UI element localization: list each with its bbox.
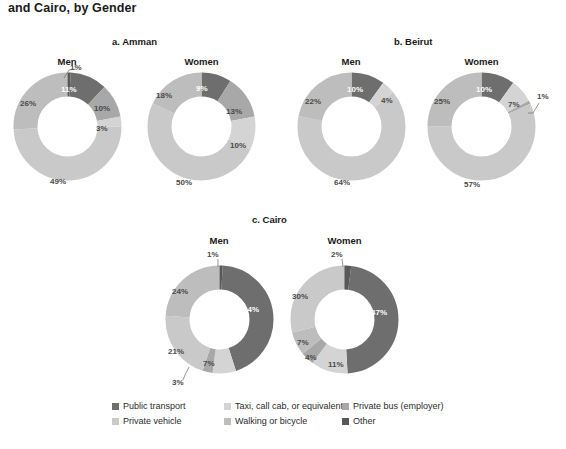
legend-label-public-transport: Public transport [123,402,186,411]
value-label-amman-women-private-bus: 13% [226,108,242,116]
legend-label-private-bus: Private bus (employer) [353,402,444,411]
legend-item-walking-bicycle[interactable]: Walking or bicycle [224,417,342,426]
chart-title-amman-women: Women [179,56,224,67]
value-label-beirut-women-private-vehicle: 57% [464,181,480,189]
value-label-cairo-women-other: 2% [331,251,343,259]
value-label-cairo-men-other: 1% [207,251,219,259]
value-label-amman-men-private-vehicle: 49% [50,178,66,186]
value-label-amman-men-taxi: 3% [96,125,108,133]
value-label-beirut-men-public-transport: 10% [347,86,363,94]
legend-label-other: Other [353,417,376,426]
value-label-cairo-women-public-transport: 47% [371,309,387,317]
value-label-amman-women-taxi: 10% [230,142,246,150]
value-label-beirut-men-private-vehicle: 64% [334,179,350,187]
value-label-beirut-women-walking-bicycle: 25% [434,98,450,106]
chart-title-cairo-women: Women [322,235,367,246]
legend-swatch-taxi-icon [224,403,231,410]
legend-label-private-vehicle: Private vehicle [123,417,182,426]
figure-root: and Cairo, by Gender a. Amman Men 1% 11%… [0,0,566,449]
chart-title-cairo-men: Men [199,235,239,246]
leader-line-cairo-men-other [213,259,223,269]
panel-title-beirut: b. Beirut [394,36,433,47]
leader-line-cairo-women-other [337,259,347,269]
value-label-cairo-men-taxi: 7% [203,360,215,368]
value-label-beirut-women-public-transport: 10% [476,86,492,94]
value-label-amman-women-public-transport: 9% [196,85,208,93]
value-label-amman-men-private-bus: 10% [94,105,110,113]
value-label-cairo-women-private-bus: 4% [305,354,317,362]
value-label-beirut-men-taxi: 4% [381,97,393,105]
chart-title-beirut-men: Men [331,56,371,67]
legend-swatch-private-bus-icon [342,403,349,410]
value-label-cairo-men-walking-bicycle: 24% [172,288,188,296]
donut-cairo-men [163,263,276,376]
value-label-beirut-women-taxi: 7% [508,101,520,109]
legend-row-1: Public transport Taxi, call cab, or equi… [112,402,492,417]
legend-item-public-transport[interactable]: Public transport [112,402,224,411]
figure-title: and Cairo, by Gender [8,1,136,15]
value-label-amman-men-other: 1% [70,64,82,72]
legend-swatch-private-vehicle-icon [112,418,119,425]
leader-line-beirut-women-private-bus [527,99,543,115]
value-label-cairo-men-private-vehicle: 21% [168,348,184,356]
legend: Public transport Taxi, call cab, or equi… [112,402,492,432]
legend-item-other[interactable]: Other [342,417,376,426]
value-label-beirut-women-private-bus: 1% [537,93,549,101]
value-label-cairo-women-taxi: 11% [328,361,344,369]
value-label-cairo-women-private-vehicle: 30% [292,293,308,301]
value-label-amman-men-walking-bicycle: 26% [20,100,36,108]
legend-row-2: Private vehicle Walking or bicycle Other [112,417,492,432]
value-label-amman-women-private-vehicle: 50% [176,179,192,187]
legend-label-taxi: Taxi, call cab, or equivalent [235,402,343,411]
chart-title-beirut-women: Women [459,56,504,67]
legend-item-private-bus[interactable]: Private bus (employer) [342,402,444,411]
value-label-cairo-men-private-bus: 3% [172,379,184,387]
legend-swatch-walking-bicycle-icon [224,418,231,425]
value-label-beirut-men-walking-bicycle: 22% [305,98,321,106]
legend-label-walking-bicycle: Walking or bicycle [235,417,307,426]
value-label-amman-men-public-transport: 11% [61,86,77,94]
panel-title-amman: a. Amman [112,36,157,47]
value-label-cairo-men-public-transport: 44% [243,306,259,314]
legend-swatch-public-transport-icon [112,403,119,410]
value-label-amman-women-walking-bicycle: 18% [156,92,172,100]
legend-item-private-vehicle[interactable]: Private vehicle [112,417,224,426]
legend-swatch-other-icon [342,418,349,425]
legend-item-taxi[interactable]: Taxi, call cab, or equivalent [224,402,342,411]
panel-title-cairo: c. Cairo [252,214,287,225]
value-label-cairo-women-walking-bicycle: 7% [297,339,309,347]
